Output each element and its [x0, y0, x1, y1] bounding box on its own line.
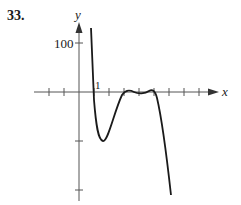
x-tick-label-1: 1	[95, 79, 101, 91]
polynomial-graph: x y 100 1	[0, 0, 241, 205]
y-axis-label: y	[73, 7, 81, 22]
function-curve	[91, 28, 171, 195]
x-axis-label: x	[221, 84, 228, 99]
x-axis-arrow-icon	[208, 89, 219, 96]
y-tick-label-100: 100	[54, 36, 74, 51]
y-axis-arrow-icon	[76, 22, 83, 33]
